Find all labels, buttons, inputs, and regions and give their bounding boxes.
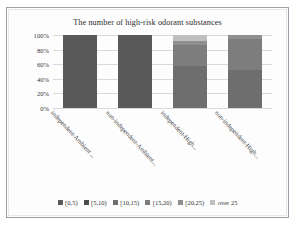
legend-swatch-icon	[58, 200, 63, 205]
legend-item[interactable]: [15,20)	[145, 199, 171, 206]
bar-column[interactable]	[118, 35, 152, 108]
bar-segment[interactable]	[63, 35, 97, 108]
legend-swatch-icon	[145, 200, 150, 205]
bar-column[interactable]	[63, 35, 97, 108]
x-axis-label: non-independent-High...	[214, 109, 262, 160]
x-axis-label: non-independent-Ambient...	[105, 109, 159, 167]
bar-segment[interactable]	[228, 70, 262, 108]
bar-column[interactable]	[173, 35, 207, 108]
x-axis-label: independent-Ambient ...	[50, 109, 97, 159]
chart-frame: The number of high-risk odorant substanc…	[6, 7, 289, 218]
legend-label: [5,10)	[91, 199, 107, 206]
legend-swatch-icon	[113, 200, 118, 205]
legend-label: [10,15)	[120, 199, 139, 206]
legend-item[interactable]: [5,10)	[84, 199, 107, 206]
legend-item[interactable]: [20,25)	[178, 199, 204, 206]
bar-column[interactable]	[228, 35, 262, 108]
legend-label: [20,25)	[185, 199, 204, 206]
legend-item[interactable]: [10,15)	[113, 199, 139, 206]
bar-segment[interactable]	[173, 66, 207, 108]
legend-label: [0,5)	[65, 199, 77, 206]
chart-legend: [0,5)[5,10)[10,15)[15,20)[20,25)over 25	[7, 199, 288, 206]
x-axis-label: independent-High...	[159, 109, 199, 151]
legend-swatch-icon	[210, 200, 215, 205]
y-axis-tick-label: 20%	[37, 90, 49, 97]
bar-segment[interactable]	[228, 39, 262, 70]
y-axis-tick-label: 0%	[40, 105, 49, 112]
y-axis-tick-label: 40%	[37, 75, 49, 82]
y-axis-tick-label: 80%	[37, 46, 49, 53]
legend-item[interactable]: over 25	[210, 199, 237, 206]
legend-label: over 25	[218, 199, 238, 206]
y-axis-tick-label: 60%	[37, 61, 49, 68]
legend-item[interactable]: [0,5)	[58, 199, 78, 206]
bar-segment[interactable]	[118, 35, 152, 108]
y-axis-tick-label: 100%	[34, 32, 49, 39]
legend-label: [15,20)	[153, 199, 172, 206]
chart-title: The number of high-risk odorant substanc…	[7, 18, 288, 27]
legend-swatch-icon	[84, 200, 89, 205]
legend-swatch-icon	[178, 200, 183, 205]
plot-area: 0%20%40%60%80%100%	[53, 35, 272, 108]
x-axis-labels: independent-Ambient ...non-independent-A…	[53, 109, 272, 181]
bar-segment[interactable]	[173, 45, 207, 67]
